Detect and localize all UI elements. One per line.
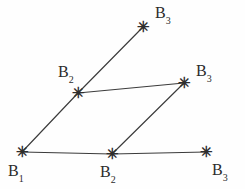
diagram-edges-layer [0, 0, 245, 189]
asterisk-marker-b3-top: ✳ [137, 20, 150, 35]
asterisk-marker-b2-lower: ✳ [106, 147, 119, 162]
diagram-canvas: ✳✳✳✳✳✳ B1B2B3B2B3B3 [0, 0, 245, 189]
vertex-label-subscript: 2 [69, 74, 74, 85]
asterisk-marker-b2-upper: ✳ [72, 86, 85, 101]
vertex-label-subscript: 3 [166, 15, 171, 26]
vertex-label-subscript: 2 [111, 174, 116, 185]
edges-group [22, 27, 206, 154]
vertex-label-subscript: 1 [19, 173, 24, 184]
edge-b2-upper-to-b3-top [78, 27, 143, 93]
vertex-label-subscript: 3 [223, 172, 228, 183]
vertex-label-b1-origin: B1 [8, 163, 24, 182]
vertex-label-b3-top: B3 [155, 5, 171, 24]
edge-b2-lower-to-b3-lower [112, 152, 206, 154]
asterisk-marker-b3-lower-right: ✳ [200, 145, 213, 160]
vertex-label-base: B [100, 163, 111, 180]
edge-b1-to-b2-lower [22, 152, 112, 154]
vertex-label-subscript: 3 [207, 73, 212, 84]
vertex-label-b3-lower-right: B3 [212, 162, 228, 181]
vertex-label-b3-middle-right: B3 [196, 63, 212, 82]
vertex-label-base: B [8, 162, 19, 179]
asterisk-marker-b1-origin: ✳ [16, 145, 29, 160]
vertex-label-base: B [58, 63, 69, 80]
edge-b2-upper-to-b3-middle [78, 83, 184, 93]
asterisk-marker-b3-middle-right: ✳ [178, 76, 191, 91]
vertex-label-b2-lower: B2 [100, 164, 116, 183]
edge-b1-to-b2-upper [22, 93, 78, 152]
edge-b2-lower-to-b3-middle [112, 83, 184, 154]
vertex-label-base: B [155, 4, 166, 21]
vertex-label-base: B [196, 62, 207, 79]
vertex-label-base: B [212, 161, 223, 178]
vertex-label-b2-upper: B2 [58, 64, 74, 83]
